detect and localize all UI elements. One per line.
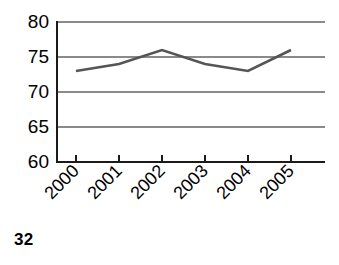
y-tick-label-65: 65 [28,116,49,137]
x-axis-labels: 2000 2001 2002 2003 2004 2005 [40,161,297,203]
line-chart: 80 75 70 65 60 2000 2001 2002 2003 2004 … [0,0,339,265]
x-tick-label-2004: 2004 [212,161,254,203]
y-tick-label-80: 80 [28,11,49,32]
y-axis-labels: 80 75 70 65 60 [28,11,49,172]
x-tick-marks [76,155,291,162]
y-tick-label-60: 60 [28,151,49,172]
x-tick-label-2003: 2003 [169,161,211,203]
x-tick-label-2005: 2005 [255,161,297,203]
y-tick-label-75: 75 [28,46,49,67]
chart-figure: 80 75 70 65 60 2000 2001 2002 2003 2004 … [0,0,339,265]
y-tick-label-70: 70 [28,81,49,102]
gridlines [57,22,325,127]
x-tick-label-2002: 2002 [126,161,168,203]
page-number: 32 [14,231,34,248]
data-line-series-0 [76,50,291,71]
x-tick-label-2001: 2001 [83,161,125,203]
